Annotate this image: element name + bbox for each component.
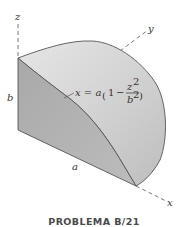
z-axis-label: z xyxy=(14,11,21,22)
figure-caption: PROBLEMA B/21 xyxy=(48,216,139,227)
y-axis-label: y xyxy=(147,23,154,34)
equation-one: 1 xyxy=(108,87,114,98)
equation-numerator-exp: 2 xyxy=(133,76,139,87)
y-axis xyxy=(120,30,148,51)
equation-open-paren: ( xyxy=(102,90,106,101)
equation-numerator: z xyxy=(126,81,133,92)
equation-lhs: x = a xyxy=(75,87,101,98)
x-axis xyxy=(136,186,166,201)
equation-close-paren: ) xyxy=(139,90,143,101)
x-axis-label: x xyxy=(167,197,173,208)
equation-minus: − xyxy=(116,87,124,98)
length-label-a: a xyxy=(72,161,78,172)
figure-canvas: z y x b a x = a ( 1 − z 2 b 2 ) PROBLEMA… xyxy=(0,0,186,227)
height-label-b: b xyxy=(7,92,13,103)
